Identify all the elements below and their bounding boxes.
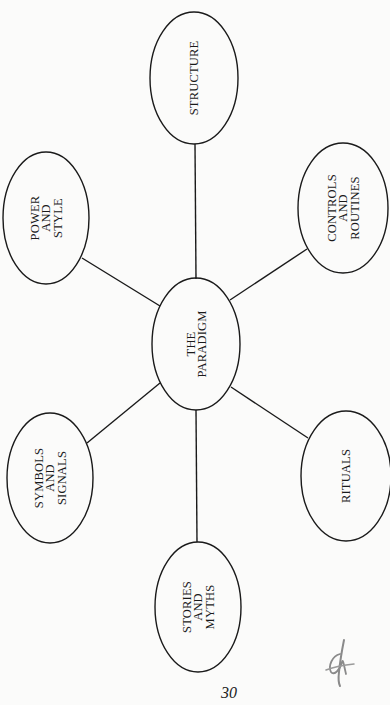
node-structure: STRUCTURE (150, 12, 238, 144)
node-controls-and-routines: CONTROLSANDROUTINES (298, 143, 388, 273)
diagram-nodes: THEPARADIGMSTRUCTUREPOWERANDSTYLECONTROL… (3, 12, 390, 672)
node-label-symbols-and-signals: SYMBOLSANDSIGNALS (32, 448, 69, 508)
node-paradigm: THEPARADIGM (152, 278, 240, 410)
node-label-paradigm: THEPARADIGM (184, 310, 210, 377)
node-stories-and-myths: STORIESANDMYTHS (155, 542, 241, 672)
node-label-structure: STRUCTURE (187, 40, 201, 115)
node-power-and-style: POWERANDSTYLE (3, 152, 89, 284)
cultural-web-diagram: THEPARADIGMSTRUCTUREPOWERANDSTYLECONTROL… (0, 0, 390, 705)
connector-paradigm-to-stories-and-myths (196, 410, 197, 542)
connector-paradigm-to-symbols-and-signals (87, 383, 160, 443)
node-label-controls-and-routines: CONTROLSANDROUTINES (325, 174, 362, 242)
connector-paradigm-to-controls-and-routines (230, 249, 307, 300)
node-label-stories-and-myths: STORIESANDMYTHS (180, 581, 217, 633)
node-label-rituals: RITUALS (339, 449, 353, 503)
node-rituals: RITUALS (301, 411, 390, 541)
connector-paradigm-to-power-and-style (82, 258, 160, 306)
page-number: 30 (221, 684, 237, 702)
handwritten-initial-mark (322, 636, 358, 688)
connector-paradigm-to-structure (195, 144, 196, 279)
node-label-power-and-style: POWERANDSTYLE (28, 195, 65, 240)
node-symbols-and-signals: SYMBOLSANDSIGNALS (7, 413, 93, 543)
connector-paradigm-to-rituals (231, 387, 308, 438)
